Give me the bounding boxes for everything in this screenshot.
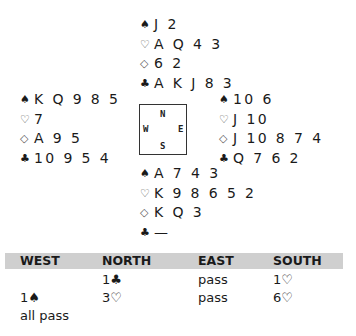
- west-hearts: ♡7: [20, 110, 120, 130]
- east-hearts: ♡J 10: [219, 110, 323, 130]
- auction-header-north: NORTH: [102, 254, 151, 268]
- spade-icon: ♠: [140, 15, 154, 35]
- bid-south-2: 6♡: [273, 290, 293, 306]
- south-spades: ♠A 7 4 3: [140, 164, 256, 184]
- diamond-icon: ◇: [140, 203, 154, 223]
- bid-west-2: 1♠: [20, 290, 40, 306]
- compass-south: S: [160, 141, 165, 151]
- heart-icon: ♡: [140, 35, 154, 55]
- bid-south-1: 1♡: [273, 272, 293, 288]
- north-hand: ♠J 2 ♡A Q 4 3 ◇6 2 ♣A K J 8 3: [140, 15, 234, 93]
- auction-header-west: WEST: [20, 254, 60, 268]
- north-diamonds: ◇6 2: [140, 54, 234, 74]
- bid-east-2: pass: [198, 290, 228, 306]
- diamond-icon: ◇: [20, 129, 34, 149]
- compass-box: N W E S: [139, 104, 187, 155]
- east-spades: ♠10 6: [219, 90, 323, 110]
- bid-north-2: 3♡: [102, 290, 122, 306]
- west-clubs: ♣10 9 5 4: [20, 149, 120, 169]
- bid-west-3: all pass: [20, 308, 69, 324]
- north-spades: ♠J 2: [140, 15, 234, 35]
- compass-east: E: [178, 124, 183, 134]
- heart-icon: ♡: [20, 110, 34, 130]
- spade-icon: ♠: [20, 90, 34, 110]
- south-hand: ♠A 7 4 3 ♡K 9 8 6 5 2 ◇K Q 3 ♣—: [140, 164, 256, 242]
- diamond-icon: ◇: [219, 129, 233, 149]
- bid-north-1: 1♣: [102, 272, 122, 288]
- compass-west: W: [143, 124, 148, 134]
- west-hand: ♠K Q 9 8 5 ♡7 ◇A 9 5 ♣10 9 5 4: [20, 90, 120, 168]
- auction-header-south: SOUTH: [273, 254, 322, 268]
- diamond-icon: ◇: [140, 54, 154, 74]
- south-hearts: ♡K 9 8 6 5 2: [140, 184, 256, 204]
- east-hand: ♠10 6 ♡J 10 ◇J 10 8 7 4 ♣Q 7 6 2: [219, 90, 323, 168]
- club-icon: ♣: [140, 74, 154, 94]
- south-clubs: ♣—: [140, 223, 256, 243]
- west-spades: ♠K Q 9 8 5: [20, 90, 120, 110]
- south-diamonds: ◇K Q 3: [140, 203, 256, 223]
- club-icon: ♣: [20, 149, 34, 169]
- east-diamonds: ◇J 10 8 7 4: [219, 129, 323, 149]
- spade-icon: ♠: [219, 90, 233, 110]
- bid-east-1: pass: [198, 272, 228, 288]
- auction-header-east: EAST: [198, 254, 234, 268]
- heart-icon: ♡: [140, 184, 154, 204]
- north-hearts: ♡A Q 4 3: [140, 35, 234, 55]
- spade-icon: ♠: [140, 164, 154, 184]
- west-diamonds: ◇A 9 5: [20, 129, 120, 149]
- heart-icon: ♡: [219, 110, 233, 130]
- compass-north: N: [160, 109, 165, 119]
- club-icon: ♣: [140, 223, 154, 243]
